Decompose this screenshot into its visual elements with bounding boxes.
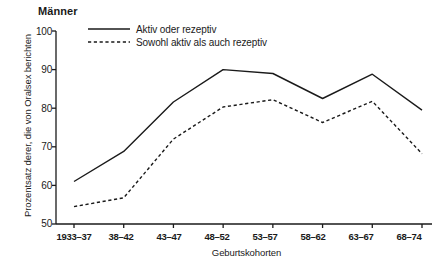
axis-lines bbox=[56, 31, 432, 224]
plot-area bbox=[0, 0, 438, 268]
chart-figure: Männer Prozentsatz derer, die von Oralse… bbox=[0, 0, 438, 268]
series-line-sowohl-aktiv-als-auch-rezeptiv bbox=[74, 100, 422, 207]
series-line-aktiv-oder-rezeptiv bbox=[74, 70, 422, 182]
